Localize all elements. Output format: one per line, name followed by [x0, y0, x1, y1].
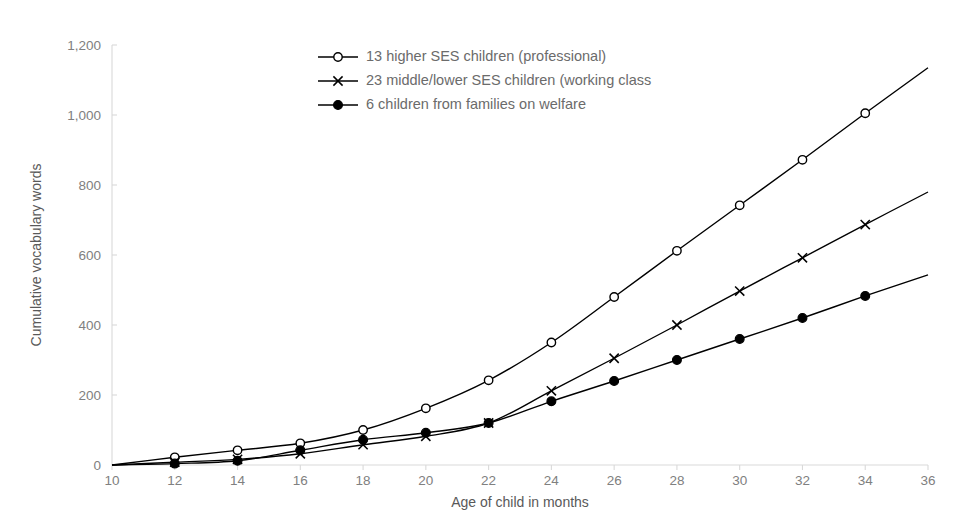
marker-filled-circle [484, 419, 493, 428]
x-tick-label: 26 [607, 473, 622, 488]
x-tick-label: 24 [544, 473, 560, 488]
marker-open-circle [233, 446, 241, 454]
marker-open-circle [422, 404, 430, 412]
x-tick-label: 20 [418, 473, 433, 488]
marker-filled-circle [735, 335, 744, 344]
marker-open-circle [484, 376, 492, 384]
marker-filled-circle [610, 377, 619, 386]
marker-open-circle [673, 247, 681, 255]
marker-filled-circle [334, 101, 343, 110]
y-tick-label: 1,200 [67, 38, 101, 53]
x-tick-label: 18 [356, 473, 371, 488]
x-axis-title: Age of child in months [451, 494, 589, 510]
marker-open-circle [359, 426, 367, 434]
x-tick-label: 16 [293, 473, 308, 488]
marker-open-circle [610, 293, 618, 301]
y-tick-label: 200 [78, 388, 101, 403]
x-tick-label: 30 [732, 473, 747, 488]
x-tick-label: 12 [167, 473, 182, 488]
y-tick-label: 0 [93, 458, 101, 473]
chart-container: 02004006008001,0001,200 1012141618202224… [0, 0, 953, 531]
marker-filled-circle [170, 459, 179, 468]
x-tick-label: 34 [858, 473, 874, 488]
marker-filled-circle [296, 446, 305, 455]
x-tick-label: 10 [104, 473, 119, 488]
y-axis-title: Cumulative vocabulary words [28, 164, 44, 347]
marker-filled-circle [673, 356, 682, 365]
marker-filled-circle [798, 314, 807, 323]
vocabulary-growth-line-chart: 02004006008001,0001,200 1012141618202224… [0, 0, 953, 531]
marker-open-circle [735, 201, 743, 209]
x-tick-label: 36 [920, 473, 935, 488]
marker-filled-circle [421, 428, 430, 437]
marker-filled-circle [233, 456, 242, 465]
y-tick-label: 600 [78, 248, 101, 263]
legend-item-label: 6 children from families on welfare [366, 96, 586, 112]
marker-open-circle [798, 156, 806, 164]
marker-open-circle [334, 53, 342, 61]
x-tick-label: 22 [481, 473, 496, 488]
y-tick-label: 400 [78, 318, 101, 333]
x-tick-label: 14 [230, 473, 246, 488]
x-tick-label: 28 [669, 473, 684, 488]
x-tick-label: 32 [795, 473, 810, 488]
legend-item-1[interactable]: 23 middle/lower SES children (working cl… [318, 72, 651, 88]
marker-open-circle [547, 338, 555, 346]
marker-filled-circle [359, 435, 368, 444]
marker-filled-circle [547, 397, 556, 406]
marker-filled-circle [861, 292, 870, 301]
y-tick-label: 800 [78, 178, 101, 193]
legend-item-label: 23 middle/lower SES children (working cl… [366, 72, 651, 88]
marker-open-circle [861, 109, 869, 117]
legend-item-label: 13 higher SES children (professional) [366, 48, 606, 64]
y-tick-label: 1,000 [67, 108, 101, 123]
